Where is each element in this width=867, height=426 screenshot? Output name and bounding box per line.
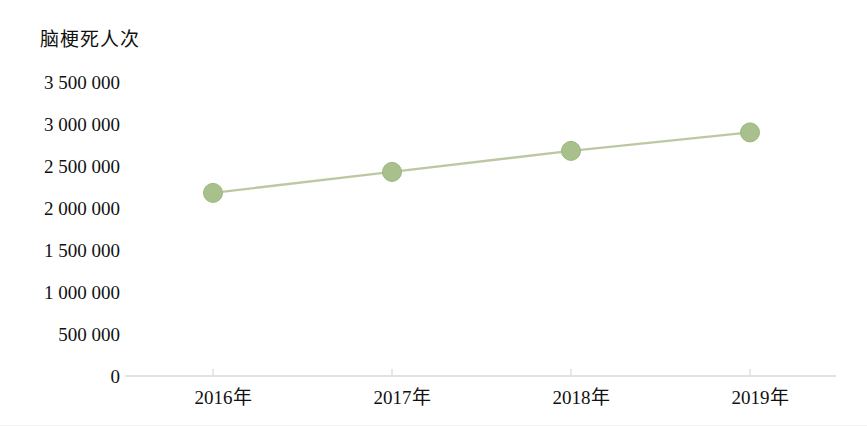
data-point-marker [204,183,223,202]
data-point-marker [383,162,402,181]
plot-area [0,0,867,426]
series-line [213,132,750,192]
data-point-marker [562,141,581,160]
data-point-marker [741,123,760,142]
line-chart: 脑梗死人次 3 500 0003 000 0002 500 0002 000 0… [0,0,867,426]
